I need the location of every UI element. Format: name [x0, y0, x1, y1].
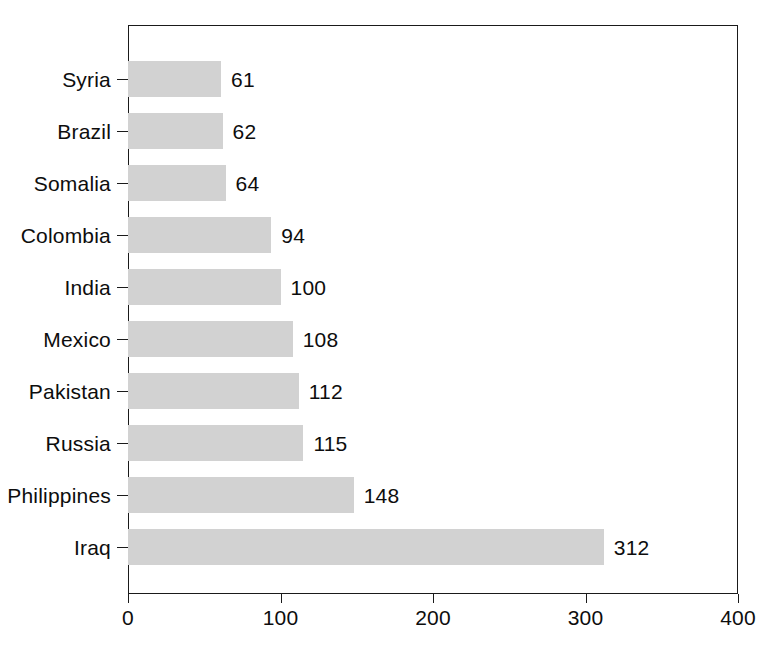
category-label-text: Brazil [57, 121, 111, 142]
bar [128, 61, 221, 97]
category-label-russia: Russia [46, 417, 128, 469]
bar [128, 425, 303, 461]
category-label-somalia: Somalia [34, 157, 128, 209]
bar-value-label: 115 [313, 433, 347, 454]
category-tick-mark [117, 391, 128, 392]
category-tick-mark [117, 339, 128, 340]
bar [128, 165, 226, 201]
bar-value-label: 62 [233, 121, 257, 142]
category-tick-mark [117, 547, 128, 548]
x-tick-mark [281, 594, 282, 603]
category-tick-mark [117, 443, 128, 444]
bar-chart: SyriaBrazilSomaliaColombiaIndiaMexicoPak… [0, 0, 766, 650]
bar [128, 113, 223, 149]
category-label-text: Somalia [34, 173, 111, 194]
category-tick-mark [117, 495, 128, 496]
category-label-text: Mexico [43, 329, 111, 350]
bar [128, 477, 354, 513]
category-label-mexico: Mexico [43, 313, 128, 365]
bar-value-label: 148 [364, 485, 400, 506]
category-label-text: Pakistan [29, 381, 111, 402]
bar-value-label: 108 [303, 329, 339, 350]
bar-value-label: 61 [231, 69, 255, 90]
bar-row: 62 [128, 105, 738, 157]
bar [128, 217, 271, 253]
category-label-india: India [64, 261, 128, 313]
bar-row: 115 [128, 417, 738, 469]
bar-value-label: 64 [236, 173, 260, 194]
bar-row: 61 [128, 53, 738, 105]
bar-value-label: 312 [614, 537, 650, 558]
x-tick-mark [128, 594, 129, 603]
bar-row: 312 [128, 521, 738, 573]
x-tick-mark [433, 594, 434, 603]
bar [128, 529, 604, 565]
x-tick-label: 300 [568, 607, 604, 628]
category-tick-mark [117, 287, 128, 288]
x-tick-label: 200 [415, 607, 451, 628]
bar-row: 100 [128, 261, 738, 313]
x-tick-mark [738, 594, 739, 603]
category-label-syria: Syria [62, 53, 128, 105]
bar [128, 373, 299, 409]
x-tick-label: 400 [720, 607, 756, 628]
category-label-iraq: Iraq [74, 521, 128, 573]
value-axis: 0100200300400 [128, 594, 738, 650]
bar-row: 148 [128, 469, 738, 521]
category-label-text: Syria [62, 69, 111, 90]
bar-row: 94 [128, 209, 738, 261]
bar-value-label: 100 [291, 277, 327, 298]
x-tick-label: 0 [122, 607, 134, 628]
bar-row: 112 [128, 365, 738, 417]
bar-row: 64 [128, 157, 738, 209]
bar [128, 321, 293, 357]
category-label-philippines: Philippines [7, 469, 128, 521]
category-label-pakistan: Pakistan [29, 365, 128, 417]
category-label-text: Colombia [21, 225, 111, 246]
bar [128, 269, 281, 305]
category-label-text: Russia [46, 433, 111, 454]
x-tick-mark [586, 594, 587, 603]
category-label-colombia: Colombia [21, 209, 128, 261]
bar-value-label: 112 [309, 381, 343, 402]
category-label-text: Philippines [7, 485, 111, 506]
bar-row: 108 [128, 313, 738, 365]
x-tick-label: 100 [263, 607, 299, 628]
category-label-brazil: Brazil [57, 105, 128, 157]
category-tick-mark [117, 79, 128, 80]
category-label-text: Iraq [74, 537, 111, 558]
category-label-text: India [64, 277, 111, 298]
bars-area: 61626494100108112115148312 [128, 25, 738, 594]
bar-value-label: 94 [281, 225, 305, 246]
category-tick-mark [117, 235, 128, 236]
category-axis: SyriaBrazilSomaliaColombiaIndiaMexicoPak… [0, 25, 128, 594]
category-tick-mark [117, 131, 128, 132]
category-tick-mark [117, 183, 128, 184]
